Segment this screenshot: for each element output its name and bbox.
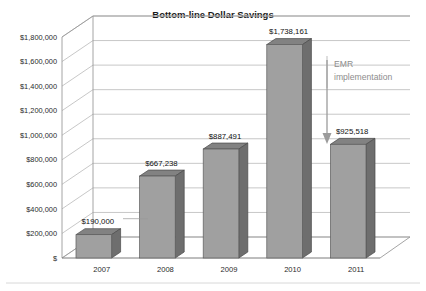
bar-front-face — [140, 176, 176, 258]
bar-side-face — [302, 39, 311, 258]
x-axis-tick-label: 2007 — [93, 265, 110, 274]
y-axis-tick-label: $1,800,000 — [20, 33, 57, 42]
bar-value-label: $667,238 — [145, 159, 178, 168]
chart-title: Bottom-line Dollar Savings — [152, 9, 273, 20]
chart-container: Bottom-line Dollar Savings $$200,000$400… — [0, 0, 426, 291]
y-axis-tick-label: $1,200,000 — [20, 106, 57, 115]
y-axis-tick-label: $1,600,000 — [20, 57, 57, 66]
y-axis-tick-label: $ — [53, 254, 57, 263]
y-axis-tick-label: $1,000,000 — [20, 131, 57, 140]
bottom-line-dollar-savings-chart: Bottom-line Dollar Savings $$200,000$400… — [0, 0, 426, 291]
bar-side-face — [239, 143, 248, 258]
y-axis-tick-label: $800,000 — [26, 155, 57, 164]
bar-side-face — [366, 138, 375, 258]
x-axis-tick-label: 2010 — [284, 265, 301, 274]
y-axis-tick-label: $200,000 — [26, 229, 57, 238]
bar-column — [203, 143, 248, 258]
y-axis-tick-label: $400,000 — [26, 205, 57, 214]
y-axis-tick-label: $600,000 — [26, 180, 57, 189]
bar-column — [267, 39, 312, 258]
x-axis-tick-label: 2009 — [221, 265, 238, 274]
bar-front-face — [267, 45, 303, 258]
x-axis-tick-label: 2011 — [348, 265, 364, 274]
bar-column — [76, 229, 121, 258]
y-axis-tick-label: $1,400,000 — [20, 82, 57, 91]
bar-value-label: $190,000 — [82, 217, 115, 226]
bar-front-face — [76, 235, 112, 258]
annotation-label-line2: implementation — [334, 72, 392, 82]
bar-column — [330, 138, 375, 258]
x-axis-tick-label: 2008 — [157, 265, 174, 274]
bar-front-face — [203, 149, 239, 258]
bar-front-face — [330, 144, 366, 258]
bar-column — [140, 170, 185, 258]
bar-value-label: $1,738,161 — [269, 27, 308, 36]
annotation-label-line1: EMR — [334, 59, 353, 69]
bar-value-label: $925,518 — [336, 127, 369, 136]
bar-side-face — [175, 170, 184, 258]
bar-value-label: $887,491 — [209, 132, 242, 141]
